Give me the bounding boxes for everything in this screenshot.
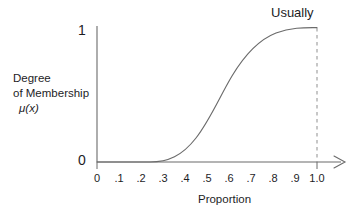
x-tick-label: .2 (136, 172, 145, 184)
x-tick-label: .8 (268, 172, 277, 184)
x-tick-label: .6 (224, 172, 233, 184)
y-tick-label-1: 1 (78, 23, 86, 37)
x-tick-label: .3 (158, 172, 167, 184)
x-tick-label: .9 (290, 172, 299, 184)
y-axis-label-line-3: μ(x) (13, 101, 89, 116)
x-tick-label-row: 0.1.2.3.4.5.6.7.8.91.0 (0, 172, 353, 186)
x-tick-label: 1.0 (309, 172, 324, 184)
membership-curve (97, 28, 317, 162)
x-axis-label-text: Proportion (198, 193, 251, 205)
x-tick-label: .4 (180, 172, 189, 184)
y-axis-label-line-2: of Membership (13, 86, 89, 101)
membership-function-chart: 1 0 Degree of Membership μ(x) 0.1.2.3.4.… (0, 0, 353, 217)
x-tick-label: .5 (202, 172, 211, 184)
y-tick-label-0: 0 (78, 153, 86, 167)
y-axis-label-line-1: Degree (13, 71, 89, 86)
x-axis-label: Proportion (0, 194, 353, 206)
x-tick-label: .1 (114, 172, 123, 184)
x-tick-label: .7 (246, 172, 255, 184)
x-tick-label: 0 (94, 172, 100, 184)
curve-annotation-usually: Usually (271, 6, 314, 19)
y-axis-label: Degree of Membership μ(x) (13, 71, 89, 116)
